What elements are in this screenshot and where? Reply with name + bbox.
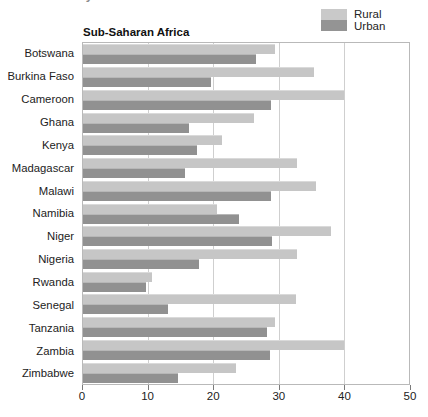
y-axis-label: Cameroon: [0, 88, 78, 111]
bar-row: [83, 225, 409, 248]
bar-urban: [83, 327, 267, 337]
bar-rural: [83, 135, 222, 145]
bar-rural: [83, 226, 331, 236]
bar-row: [83, 43, 409, 66]
legend-labels: Rural Urban: [354, 9, 385, 32]
bar-row: [83, 270, 409, 293]
y-axis-label: Botswana: [0, 42, 78, 65]
x-axis-label: 10: [141, 390, 154, 402]
bar-row: [83, 179, 409, 202]
bar-urban: [83, 168, 185, 178]
y-axis-label: Zimbabwe: [0, 362, 78, 385]
bar-urban: [83, 350, 270, 360]
bar-row: [83, 202, 409, 225]
bar-row: [83, 361, 409, 384]
bar-rural: [83, 340, 344, 350]
legend-swatch-urban: [321, 20, 347, 31]
x-axis-labels: 01020304050: [0, 390, 428, 406]
bar-row: [83, 248, 409, 271]
legend-swatches: [321, 9, 347, 31]
bar-rural: [83, 204, 217, 214]
bar-urban: [83, 282, 146, 292]
bar-urban: [83, 236, 272, 246]
legend-label-rural: Rural: [354, 9, 385, 21]
legend: Rural Urban: [321, 9, 385, 32]
cut-off-headline-text: by Residential Residence: [78, 0, 378, 2]
bar-rural: [83, 181, 316, 191]
cut-off-headline: by Residential Residence: [78, 0, 378, 2]
bar-rural: [83, 363, 236, 373]
x-axis-label: 30: [272, 390, 285, 402]
y-axis-label: Tanzania: [0, 316, 78, 339]
x-axis-label: 40: [338, 390, 351, 402]
bar-urban: [83, 191, 271, 201]
bar-rural: [83, 44, 275, 54]
bar-rural: [83, 249, 297, 259]
bar-row: [83, 66, 409, 89]
bar-urban: [83, 145, 197, 155]
legend-label-urban: Urban: [354, 21, 385, 33]
bar-rural: [83, 272, 152, 282]
chart-root: by Residential Residence Rural Urban Sub…: [0, 0, 428, 417]
bar-rural: [83, 158, 297, 168]
bar-row: [83, 134, 409, 157]
bar-rural: [83, 67, 314, 77]
bar-urban: [83, 77, 211, 87]
y-axis-label: Rwanda: [0, 271, 78, 294]
y-axis-label: Namibia: [0, 202, 78, 225]
y-axis-label: Ghana: [0, 111, 78, 134]
legend-swatch-rural: [321, 9, 347, 20]
y-axis-label: Burkina Faso: [0, 65, 78, 88]
bar-rural: [83, 294, 296, 304]
bar-rural: [83, 90, 344, 100]
y-axis-label: Madagascar: [0, 156, 78, 179]
bar-row: [83, 316, 409, 339]
bar-urban: [83, 100, 271, 110]
x-axis-label: 0: [79, 390, 85, 402]
bar-rural: [83, 113, 254, 123]
panel-title: Sub-Saharan Africa: [83, 26, 189, 38]
bar-urban: [83, 373, 178, 383]
bar-row: [83, 339, 409, 362]
bar-rows: [83, 43, 409, 384]
y-axis-label: Nigeria: [0, 248, 78, 271]
bar-urban: [83, 123, 189, 133]
y-axis-label: Zambia: [0, 339, 78, 362]
x-axis-label: 50: [404, 390, 417, 402]
bar-urban: [83, 54, 256, 64]
plot-area: [82, 42, 410, 385]
y-axis-label: Niger: [0, 225, 78, 248]
bar-urban: [83, 304, 168, 314]
y-axis-label: Malawi: [0, 179, 78, 202]
bar-row: [83, 111, 409, 134]
bar-rural: [83, 317, 275, 327]
y-axis-labels: BotswanaBurkina FasoCameroonGhanaKenyaMa…: [0, 42, 78, 385]
y-axis-label: Senegal: [0, 293, 78, 316]
x-axis-label: 20: [207, 390, 220, 402]
bar-urban: [83, 259, 199, 269]
bar-row: [83, 293, 409, 316]
bar-row: [83, 157, 409, 180]
bar-row: [83, 88, 409, 111]
bar-urban: [83, 214, 239, 224]
y-axis-label: Kenya: [0, 133, 78, 156]
